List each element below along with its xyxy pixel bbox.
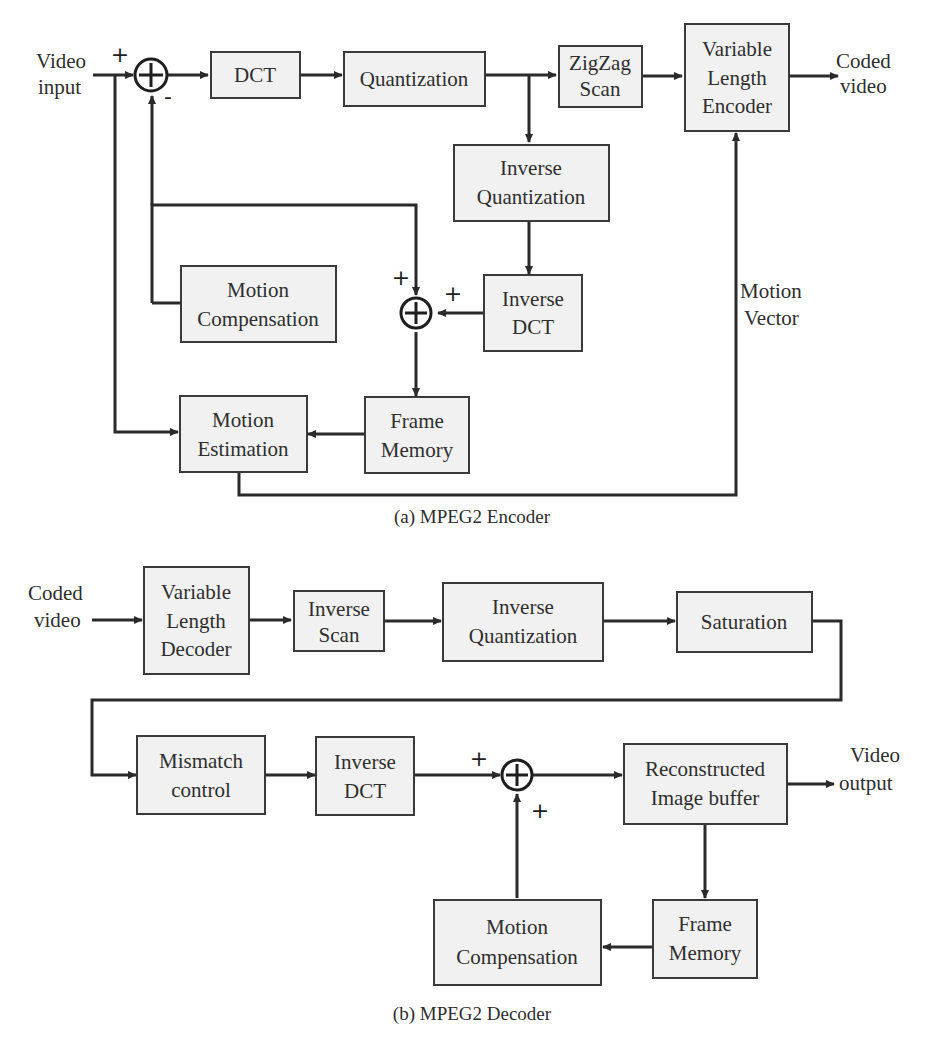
svg-text:Reconstructed: Reconstructed [645, 757, 766, 781]
decoder-input-label-1: Coded [28, 581, 83, 605]
svg-text:Inverse: Inverse [500, 156, 562, 180]
encoder-input-label-1: Video [36, 49, 86, 73]
svg-text:DCT: DCT [512, 315, 554, 339]
decoder-input-label-2: video [34, 608, 81, 632]
svg-text:Saturation: Saturation [701, 610, 788, 634]
decoder-caption: (b) MPEG2 Decoder [393, 1003, 552, 1025]
sign-recon-plus-right: + [444, 281, 462, 306]
svg-text:Scan: Scan [580, 77, 621, 101]
svg-text:Inverse: Inverse [502, 287, 564, 311]
sign-recon-plus-top: + [392, 265, 410, 290]
svg-text:Motion: Motion [227, 278, 289, 302]
decoder-output-label-2: output [839, 771, 893, 795]
block-variable-length-decoder: Variable Length Decoder [144, 567, 249, 674]
block-frame-memory: Frame Memory [365, 397, 469, 473]
encoder-recon-sum-junction [401, 298, 431, 328]
block-inverse-dct: Inverse DCT [484, 275, 582, 351]
block-dct: DCT [211, 52, 300, 98]
decoder-sum-junction [502, 760, 532, 790]
motion-vector-label-2: Vector [744, 306, 799, 330]
svg-text:Memory: Memory [381, 438, 454, 462]
block-quantization: Quantization [344, 52, 485, 106]
decoder-output-label-1: Video [850, 743, 900, 767]
svg-text:Variable: Variable [702, 37, 772, 61]
block-variable-length-encoder: Variable Length Encoder [685, 24, 789, 131]
encoder-output-label-2: video [840, 74, 887, 98]
svg-text:Quantization: Quantization [477, 185, 586, 209]
block-reconstructed-image-buffer: Reconstructed Image buffer [624, 744, 787, 824]
svg-text:Mismatch: Mismatch [159, 749, 243, 773]
svg-text:Inverse: Inverse [308, 597, 370, 621]
svg-text:Length: Length [707, 66, 767, 90]
block-motion-compensation-dec: Motion Compensation [434, 900, 601, 985]
sign-decoder-plus-top: + [470, 746, 488, 771]
svg-text:Frame: Frame [678, 912, 732, 936]
svg-text:Compensation: Compensation [197, 307, 319, 331]
block-zigzag-scan: ZigZag Scan [559, 46, 642, 107]
wire-input-to-motion-estimation [115, 75, 178, 432]
block-inverse-quantization: Inverse Quantization [454, 145, 609, 221]
svg-text:Motion: Motion [212, 408, 274, 432]
svg-text:Length: Length [166, 609, 226, 633]
block-motion-compensation: Motion Compensation [181, 266, 336, 342]
svg-text:Decoder: Decoder [160, 637, 231, 661]
encoder-sum-junction [135, 59, 167, 91]
encoder-diagram: + - + + Video input Coded video Motion V… [36, 24, 891, 528]
svg-text:Scan: Scan [319, 623, 360, 647]
block-mismatch-control: Mismatch control [137, 736, 265, 814]
block-inverse-scan: Inverse Scan [294, 591, 384, 651]
block-frame-memory-dec: Frame Memory [653, 900, 757, 978]
svg-text:Motion: Motion [486, 915, 548, 939]
svg-text:Estimation: Estimation [198, 437, 289, 461]
encoder-output-label-1: Coded [836, 49, 891, 73]
encoder-caption: (a) MPEG2 Encoder [394, 506, 551, 528]
motion-vector-label-1: Motion [740, 279, 802, 303]
svg-text:Memory: Memory [669, 941, 742, 965]
encoder-input-label-2: input [38, 75, 81, 99]
decoder-diagram: + + Coded video Video output Variable Le… [28, 567, 900, 1025]
svg-text:Quantization: Quantization [360, 67, 469, 91]
sign-input-plus: + [111, 42, 129, 67]
block-motion-estimation: Motion Estimation [180, 396, 307, 472]
svg-text:Encoder: Encoder [702, 94, 772, 118]
svg-text:Frame: Frame [390, 409, 444, 433]
sign-decoder-plus-bottom: + [531, 798, 549, 823]
sign-feedback-minus: - [164, 84, 172, 109]
block-saturation: Saturation [677, 592, 812, 652]
svg-text:Inverse: Inverse [492, 595, 554, 619]
svg-text:Compensation: Compensation [456, 945, 578, 969]
svg-text:Variable: Variable [161, 580, 231, 604]
svg-text:control: control [171, 778, 231, 802]
block-inverse-quantization-dec: Inverse Quantization [443, 583, 603, 661]
svg-text:ZigZag: ZigZag [569, 51, 631, 75]
svg-text:Inverse: Inverse [334, 750, 396, 774]
svg-text:Image buffer: Image buffer [651, 786, 760, 810]
svg-text:DCT: DCT [234, 63, 276, 87]
block-inverse-dct-dec: Inverse DCT [316, 737, 414, 815]
svg-text:DCT: DCT [344, 779, 386, 803]
mpeg2-diagram: + - + + Video input Coded video Motion V… [0, 0, 945, 1041]
svg-text:Quantization: Quantization [469, 624, 578, 648]
